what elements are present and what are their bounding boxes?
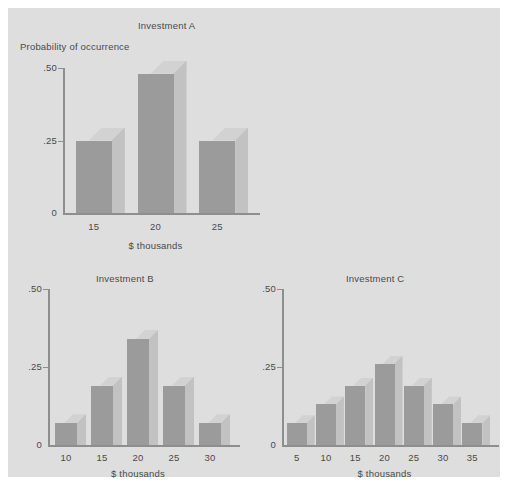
bar: [91, 377, 122, 445]
bar: [199, 414, 230, 445]
bar: [375, 356, 403, 445]
x-axis-title: $ thousands: [282, 468, 487, 479]
y-tick-mark: [277, 289, 282, 290]
bar-front-face: [375, 364, 395, 445]
y-tick-mark: [58, 68, 63, 69]
chart-investment-a: Investment A Probability of occurrence .…: [8, 8, 308, 258]
bar: [462, 415, 490, 445]
x-tick-label: 25: [154, 452, 194, 463]
bar: [76, 128, 125, 214]
bar: [55, 414, 86, 445]
bar-front-face: [404, 386, 424, 445]
y-tick-label: 0: [246, 439, 276, 450]
chart-b-plot-area: .50.2501015202530$ thousands: [8, 263, 253, 477]
bar-side-face: [424, 378, 432, 445]
y-tick-mark: [58, 141, 63, 142]
y-axis-line: [48, 289, 50, 446]
chart-a-plot-area: .50.250152025$ thousands: [8, 8, 308, 258]
y-tick-mark: [43, 289, 48, 290]
y-tick-label: .50: [246, 283, 276, 294]
bar: [345, 378, 373, 445]
x-tick-label: 15: [82, 452, 122, 463]
bar-front-face: [199, 423, 221, 445]
y-tick-mark: [277, 367, 282, 368]
y-tick-label: .50: [27, 62, 57, 73]
bar-front-face: [163, 386, 185, 445]
x-tick-label: 15: [74, 221, 114, 232]
bar-side-face: [149, 330, 158, 445]
x-tick-label: 35: [452, 452, 492, 463]
y-axis-line: [282, 289, 284, 446]
bar-front-face: [76, 141, 112, 214]
bar-side-face: [113, 377, 122, 445]
bar: [127, 330, 158, 445]
x-tick-label: 30: [190, 452, 230, 463]
x-tick-label: 25: [197, 221, 237, 232]
bar-side-face: [174, 61, 187, 213]
bar: [163, 377, 194, 445]
bar-side-face: [112, 128, 125, 214]
bar: [316, 396, 344, 445]
x-axis-title: $ thousands: [48, 468, 228, 479]
bar-front-face: [462, 423, 482, 445]
bar: [287, 415, 315, 445]
bar-front-face: [345, 386, 365, 445]
figure-panel: Investment A Probability of occurrence .…: [8, 8, 500, 477]
x-axis-line: [282, 445, 499, 447]
x-tick-label: 10: [46, 452, 86, 463]
y-axis-line: [63, 68, 65, 214]
x-axis-line: [48, 445, 240, 447]
bar-front-face: [55, 423, 77, 445]
chart-investment-c: Investment C .50.2505101520253035$ thous…: [253, 263, 500, 477]
bar-front-face: [316, 404, 336, 445]
y-tick-label: .25: [12, 361, 42, 372]
bar-side-face: [395, 356, 403, 445]
bar: [138, 61, 187, 213]
chart-investment-b: Investment B .50.2501015202530$ thousand…: [8, 263, 253, 477]
x-tick-label: 20: [136, 221, 176, 232]
x-tick-label: 20: [118, 452, 158, 463]
y-tick-label: .25: [246, 361, 276, 372]
y-tick-label: 0: [12, 439, 42, 450]
bar-front-face: [138, 74, 174, 213]
y-tick-mark: [43, 367, 48, 368]
bar-front-face: [287, 423, 307, 445]
bar-side-face: [336, 396, 344, 445]
bar-front-face: [433, 404, 453, 445]
bar-side-face: [185, 377, 194, 445]
x-axis-title: $ thousands: [63, 240, 248, 251]
y-tick-label: .50: [12, 283, 42, 294]
bar-side-face: [365, 378, 373, 445]
bar: [199, 128, 248, 214]
bar-side-face: [235, 128, 248, 214]
y-tick-label: 0: [27, 207, 57, 218]
bar-front-face: [199, 141, 235, 214]
bar-front-face: [127, 339, 149, 445]
chart-c-plot-area: .50.2505101520253035$ thousands: [253, 263, 500, 477]
bar: [404, 378, 432, 445]
x-axis-line: [63, 213, 260, 215]
bar: [433, 396, 461, 445]
bar-front-face: [91, 386, 113, 445]
bar-side-face: [453, 396, 461, 445]
y-tick-label: .25: [27, 135, 57, 146]
